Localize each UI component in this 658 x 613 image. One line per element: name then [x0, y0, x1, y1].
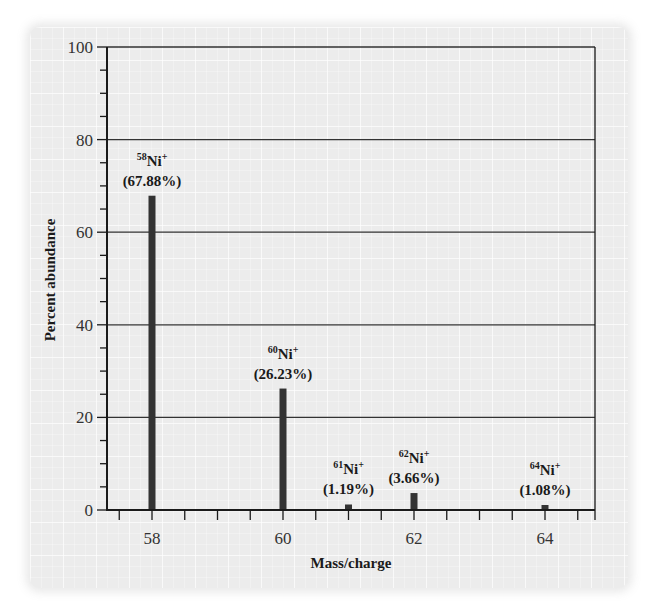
axes: [107, 47, 595, 520]
charge-superscript: +: [358, 459, 364, 470]
bar-ni-62: [411, 493, 418, 510]
x-tick-label: 58: [144, 529, 161, 548]
charge-superscript: +: [162, 151, 168, 162]
ion-symbol: Ni: [343, 461, 358, 477]
peak-label-ion: 60Ni+: [268, 344, 299, 362]
y-tick-label: 60: [76, 223, 93, 242]
x-axis-ticks: 58606264: [119, 510, 578, 548]
peak-label-ion: 58Ni+: [137, 151, 168, 169]
x-tick-label: 60: [275, 529, 292, 548]
peak-label-percent: (1.08%): [519, 482, 570, 499]
bar-ni-60: [280, 389, 287, 510]
y-tick-label: 80: [76, 131, 93, 150]
x-tick-label: 62: [406, 529, 423, 548]
charge-superscript: +: [424, 448, 430, 459]
peak-label-percent: (1.19%): [323, 481, 374, 498]
bar-ni-58: [149, 196, 156, 510]
peak-label-percent: (3.66%): [388, 470, 439, 487]
mass-spectrum-chart: 020406080100 58606264 58Ni+(67.88%)60Ni+…: [0, 0, 658, 613]
y-axis-ticks: 020406080100: [68, 38, 108, 520]
y-tick-label: 100: [68, 38, 94, 57]
peak-label-ion: 64Ni+: [530, 460, 561, 478]
isotope-mass-superscript: 64: [530, 460, 540, 471]
y-axis-title: Percent abundance: [42, 218, 58, 341]
x-axis-title: Mass/charge: [311, 555, 392, 571]
peak-label-percent: (67.88%): [123, 173, 182, 190]
charge-superscript: +: [555, 460, 561, 471]
peak-label-percent: (26.23%): [254, 366, 313, 383]
y-tick-label: 0: [85, 501, 94, 520]
isotope-mass-superscript: 61: [333, 459, 343, 470]
y-tick-label: 20: [76, 408, 93, 427]
y-tick-label: 40: [76, 316, 93, 335]
ion-symbol: Ni: [540, 462, 555, 478]
charge-superscript: +: [293, 344, 299, 355]
isotope-mass-superscript: 58: [137, 151, 147, 162]
ion-symbol: Ni: [278, 346, 293, 362]
isotope-mass-superscript: 62: [399, 448, 409, 459]
ion-symbol: Ni: [147, 153, 162, 169]
ion-symbol: Ni: [409, 450, 424, 466]
peak-label-ion: 61Ni+: [333, 459, 364, 477]
isotope-mass-superscript: 60: [268, 344, 278, 355]
peak-label-ion: 62Ni+: [399, 448, 430, 466]
gridlines: [107, 47, 595, 417]
x-tick-label: 64: [537, 529, 555, 548]
